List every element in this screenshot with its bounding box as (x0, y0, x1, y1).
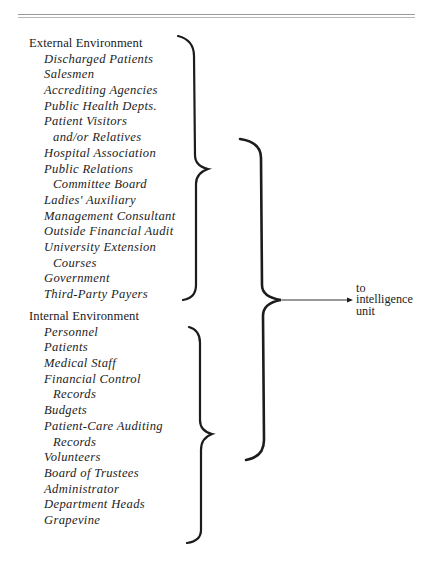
combining-brace-icon (240, 139, 281, 460)
internal-brace-icon (187, 327, 212, 543)
external-brace-icon (178, 36, 208, 300)
intelligence-unit-label: to intelligence unit (356, 283, 413, 317)
arrow-head-icon (347, 298, 353, 303)
target-line: unit (356, 306, 413, 317)
